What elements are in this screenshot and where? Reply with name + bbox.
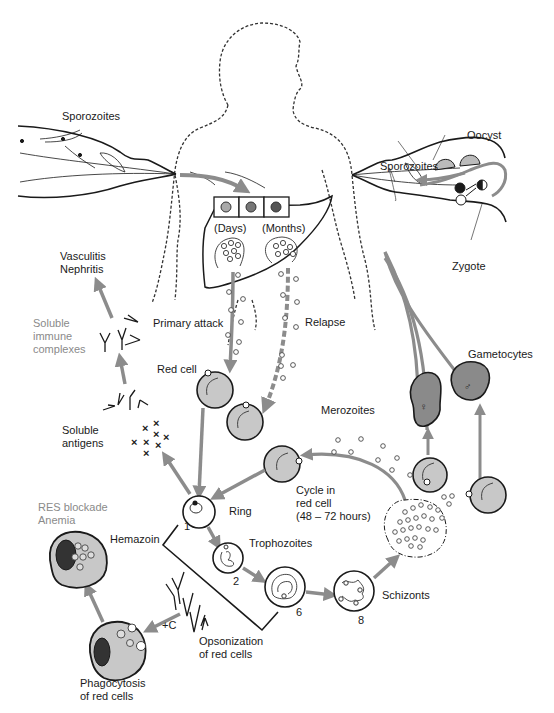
- arrow-complex-to-vasculitis: [97, 282, 112, 318]
- label-months: (Months): [262, 222, 305, 235]
- label-opsonization: Opsonization of red cells: [199, 635, 263, 661]
- gametocyte-female: ♀: [411, 373, 441, 427]
- svg-text:×: ×: [142, 422, 148, 434]
- macrophage-hemazoin: [50, 532, 107, 588]
- svg-text:×: ×: [155, 439, 161, 451]
- late-trophozoite-cell: [265, 567, 305, 607]
- label-res-blockade-anemia: RES blockade Anemia: [38, 501, 108, 527]
- schizont-cell: [334, 571, 374, 611]
- macrophage-phagocytosis: [90, 622, 146, 680]
- arrow-ring-to-antigens: [165, 456, 190, 494]
- oocysts: [398, 135, 487, 240]
- trophozoite-cell: [213, 543, 243, 573]
- schizont-burst: [384, 494, 454, 557]
- liver-schizont-days: [215, 238, 244, 268]
- label-soluble-antigens: Soluble antigens: [62, 424, 104, 450]
- svg-text:×: ×: [143, 447, 149, 459]
- label-sporozoites-human: Sporozoites: [62, 110, 120, 123]
- male-symbol: ♂: [464, 381, 472, 392]
- label-soluble-immune-complexes: Soluble immune complexes: [33, 317, 86, 356]
- label-hemazoin: Hemazoin: [110, 533, 160, 546]
- liver-schizont-months: [265, 237, 297, 263]
- label-zygote: Zygote: [452, 260, 486, 273]
- label-gametocytes: Gametocytes: [468, 348, 533, 361]
- female-symbol: ♀: [420, 401, 428, 412]
- svg-text:×: ×: [163, 431, 169, 443]
- label-oocyst: Oocyst: [467, 129, 501, 142]
- arrow-merozoite-cell-to-ring: [215, 470, 265, 497]
- antibodies-immune-complex: [100, 315, 148, 410]
- svg-text:×: ×: [131, 436, 137, 448]
- label-trophozoites: Trophozoites: [249, 537, 312, 550]
- label-red-cell: Red cell: [157, 363, 197, 376]
- arrow-relapse: [265, 268, 288, 408]
- stage-number-8: 8: [358, 614, 364, 626]
- stage-number-1: 1: [184, 520, 190, 532]
- label-primary-attack: Primary attack: [153, 317, 223, 330]
- label-vasculitis-nephritis: Vasculitis Nephritis: [60, 250, 106, 276]
- arrow-troph-to-late: [243, 568, 262, 580]
- arrow-primary-attack: [230, 272, 233, 368]
- arrow-phagocytosis-to-hemazoin: [87, 587, 103, 622]
- hepatocyte-row: [214, 197, 289, 217]
- label-ring: Ring: [229, 505, 252, 518]
- label-plus-complement: +C: [162, 619, 176, 632]
- label-relapse: Relapse: [305, 316, 345, 329]
- arrow-ring-to-trophozoite: [208, 527, 218, 545]
- human-body-outline: [152, 23, 375, 345]
- label-schizonts: Schizonts: [382, 589, 430, 602]
- gametocyte-male: ♂: [451, 362, 489, 400]
- arrow-red-cell-to-ring: [199, 408, 203, 494]
- label-cycle-in-red-cell: Cycle in red cell (48 – 72 hours): [296, 484, 371, 523]
- soluble-antigen-marks: ××× ××× ××: [131, 417, 169, 459]
- mosquito-left: [18, 126, 265, 198]
- stage-number-6: 6: [296, 606, 302, 618]
- label-merozoites: Merozoites: [321, 404, 375, 417]
- arrow-schizont-to-burst: [374, 558, 396, 578]
- stage-number-2: 2: [233, 575, 239, 587]
- arrow-late-to-schizont: [306, 592, 332, 595]
- label-phagocytosis: Phagocytosis of red cells: [80, 677, 145, 703]
- arrow-antigens-to-complex: [120, 358, 125, 384]
- label-sporozoites-mosquito: Sporozoites: [380, 160, 438, 173]
- label-days: (Days): [214, 222, 246, 235]
